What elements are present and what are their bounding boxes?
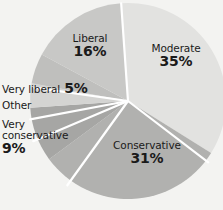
pie-label-moderate: Moderate 35%: [143, 43, 209, 68]
pie-label-other-name: Other: [2, 100, 31, 111]
pie-label-very-conservative-value: 9%: [2, 141, 68, 156]
pie-label-very-liberal-name: Very liberal: [2, 84, 60, 95]
pie-chart-svg: [0, 0, 223, 210]
pie-label-very-liberal: Very liberal 5%: [2, 81, 88, 96]
pie-label-very-conservative: Very conservative 9%: [2, 119, 68, 155]
pie-label-conservative: Conservative 31%: [108, 140, 186, 165]
pie-label-liberal-value: 16%: [59, 44, 121, 59]
pie-label-liberal: Liberal 16%: [59, 33, 121, 58]
pie-label-moderate-value: 35%: [143, 54, 209, 69]
pie-label-conservative-value: 31%: [108, 151, 186, 166]
pie-label-other: Other: [2, 100, 31, 111]
pie-label-very-liberal-value: 5%: [64, 81, 87, 96]
pie-chart-figure: Liberal 16% Moderate 35% Very liberal 5%…: [0, 0, 223, 210]
